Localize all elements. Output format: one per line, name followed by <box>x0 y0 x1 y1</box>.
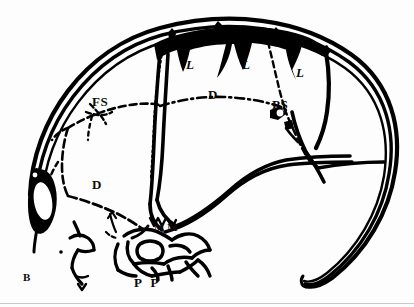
figure-baseline-rule <box>0 303 414 304</box>
figure-panel-b: L L L D D FS PS M M P P B <box>0 0 414 307</box>
label-frontal-suture: FS <box>92 95 108 108</box>
skull-diagram-svg <box>0 0 414 307</box>
solid-bone-outlines <box>150 52 384 232</box>
outer-cranial-arcs <box>30 19 397 287</box>
label-dentary-lower: D <box>92 178 102 191</box>
label-dentary-upper: D <box>208 88 218 101</box>
panel-label: B <box>23 272 30 283</box>
label-maxilla-pair: M M <box>154 222 178 233</box>
detached-bone-splinters <box>59 212 118 290</box>
label-lacrimal-right: L <box>296 66 304 79</box>
dorsal-band-with-spikes <box>154 21 331 148</box>
label-lacrimal-middle: L <box>242 58 250 71</box>
label-parietal-suture: PS <box>272 98 288 111</box>
orbit-ring <box>28 169 57 234</box>
label-lacrimal-left: L <box>186 58 194 71</box>
label-premaxilla-pair: P P <box>134 276 161 289</box>
